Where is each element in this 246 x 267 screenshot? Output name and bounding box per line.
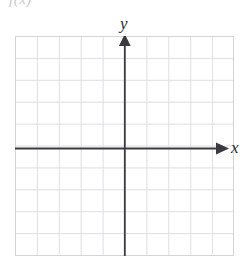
figure-canvas: f(x) (0, 0, 246, 267)
x-axis-label: x (231, 138, 239, 158)
coordinate-grid (15, 36, 234, 256)
partial-caption-text: f(x) (9, 0, 32, 8)
coordinate-grid-svg (15, 36, 234, 256)
y-axis-label: y (120, 14, 128, 34)
